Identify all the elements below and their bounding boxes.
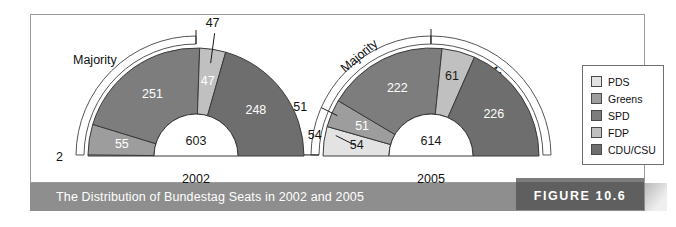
legend-label-pds: PDS xyxy=(608,76,630,88)
legend-swatch-fdp xyxy=(591,127,602,138)
segment-label-fdp-2005: 61 xyxy=(445,69,459,83)
legend-swatch-spd xyxy=(591,110,602,121)
caption-band-shadow xyxy=(645,183,667,211)
segment-label-spd-2005: 222 xyxy=(387,81,408,95)
legend-item-cdu-csu: CDU/CSU xyxy=(591,141,663,158)
legend-swatch-cdu-csu xyxy=(591,144,602,155)
total-label-2002: 603 xyxy=(186,134,207,148)
legend-box: PDS Greens SPD FDP CDU/CSU xyxy=(582,65,664,165)
donut-2005: MajorityMajority54512226122654516142005 xyxy=(293,29,551,184)
callout-label-greens-2005: 51 xyxy=(293,100,307,114)
callout-label-pds-2005: 54 xyxy=(308,128,322,142)
legend-label-fdp: FDP xyxy=(608,127,629,139)
callout-label-fdp-2002: 47 xyxy=(206,16,220,30)
bundestag-donut-charts: Majority55251472482476032002MajorityMajo… xyxy=(31,15,646,184)
legend-label-cdu-csu: CDU/CSU xyxy=(608,144,656,156)
legend-item-pds: PDS xyxy=(591,73,663,90)
callout-label-pds-2002: 2 xyxy=(56,150,63,164)
majority-label-left: Majority xyxy=(73,53,118,67)
segment-label-pds-2005: 54 xyxy=(350,138,364,152)
figure-badge-label: FIGURE 10.6 xyxy=(534,189,627,203)
total-label-2005: 614 xyxy=(421,134,442,148)
legend-item-greens: Greens xyxy=(591,90,663,107)
legend-item-fdp: FDP xyxy=(591,124,663,141)
segment-label-cdu-csu-2002: 248 xyxy=(245,103,266,117)
segment-label-spd-2002: 251 xyxy=(142,87,163,101)
chart-panel: Majority55251472482476032002MajorityMajo… xyxy=(30,14,645,183)
legend-label-spd: SPD xyxy=(608,110,630,122)
segment-label-greens-2005: 51 xyxy=(355,119,369,133)
figure-badge: FIGURE 10.6 xyxy=(516,182,644,210)
figure-caption: The Distribution of Bundestag Seats in 2… xyxy=(56,190,364,204)
figure-container: Majority55251472482476032002MajorityMajo… xyxy=(0,0,676,227)
legend-swatch-greens xyxy=(591,93,602,104)
legend-item-spd: SPD xyxy=(591,107,663,124)
segment-label-greens-2002: 55 xyxy=(115,137,129,151)
legend-label-greens: Greens xyxy=(608,93,642,105)
segment-label-cdu-csu-2005: 226 xyxy=(483,107,504,121)
segment-label-fdp-2002: 47 xyxy=(201,74,215,88)
donut-2002: Majority55251472482476032002 xyxy=(56,16,304,184)
legend-swatch-pds xyxy=(591,76,602,87)
